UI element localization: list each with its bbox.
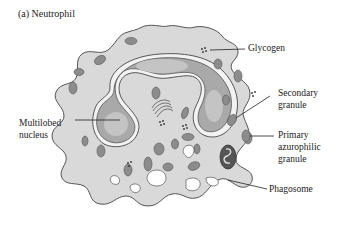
primary-azurophilic-granule [242,130,250,142]
label-glycogen: Glycogen [248,43,285,54]
label-primary-line3: granule [278,154,307,165]
label-nucleus-line2: nucleus [19,130,48,141]
label-secondary-granule-line2: granule [278,100,307,111]
chromatin-patch [205,90,223,122]
label-nucleus-line1: Multilobed [19,118,61,129]
label-primary-line1: Primary [278,130,309,141]
label-secondary-granule-line1: Secondary [278,88,318,99]
label-phagosome: Phagosome [269,184,313,195]
chromatin-patch [104,112,128,136]
label-primary-line2: azurophilic [278,142,321,153]
chromatin-patch [136,59,188,73]
